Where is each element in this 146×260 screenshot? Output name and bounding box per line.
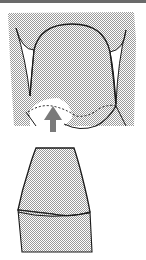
dental-diagram [0,0,146,260]
lower-panel [18,148,92,252]
upper-panel [8,12,136,129]
crown-profile [18,148,90,216]
